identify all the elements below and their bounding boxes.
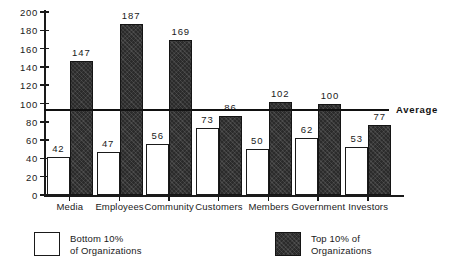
y-axis-tick-label: 80 <box>0 117 38 128</box>
bar-value-label: 102 <box>271 88 290 99</box>
bar-value-label: 47 <box>102 138 114 149</box>
bar-value-label: 56 <box>152 130 164 141</box>
bar-value-label: 100 <box>321 90 340 101</box>
x-axis-category-label: Media <box>57 201 84 212</box>
bar-bottom-decile: 73 <box>196 128 219 195</box>
filled-swatch-icon <box>275 232 301 256</box>
bar-group: 42147 <box>47 12 93 195</box>
bar-group: 50102 <box>246 12 292 195</box>
y-axis-tick-label: 120 <box>0 80 38 91</box>
x-axis-tick <box>119 190 120 201</box>
x-axis-category-label: Members <box>248 201 289 212</box>
average-reference-line <box>44 109 389 111</box>
legend-label-line-1: Bottom 10% <box>70 233 123 244</box>
bar-top-decile: 86 <box>219 116 242 195</box>
y-axis-tick-label: 160 <box>0 44 38 55</box>
y-axis-tick-label: 200 <box>0 7 38 18</box>
bar-group: 62100 <box>295 12 341 195</box>
bar-value-label: 77 <box>373 111 385 122</box>
bar-value-label: 53 <box>350 133 362 144</box>
average-line-label: Average <box>396 104 438 115</box>
bar-value-label: 62 <box>301 124 313 135</box>
y-axis-tick-label: 140 <box>0 62 38 73</box>
legend-label-line-1: Top 10% of <box>311 233 360 244</box>
x-axis-tick <box>317 190 318 201</box>
x-axis-tick <box>69 190 70 201</box>
bar-value-label: 147 <box>72 47 91 58</box>
bar-value-label: 73 <box>201 114 213 125</box>
bar-top-decile: 77 <box>368 125 391 195</box>
y-axis-tick-label: 100 <box>0 99 38 110</box>
bar-bottom-decile: 42 <box>47 157 70 195</box>
bar-group: 56169 <box>146 12 192 195</box>
x-axis-category-label: Employees <box>95 201 143 212</box>
y-axis-tick-label: 20 <box>0 172 38 183</box>
bar-group: 7386 <box>196 12 242 195</box>
bar-value-label: 169 <box>172 26 191 37</box>
bar-value-label: 86 <box>224 102 236 113</box>
bar-bottom-decile: 62 <box>295 138 318 195</box>
bar-value-label: 42 <box>52 143 64 154</box>
legend-label-bottom-decile: Bottom 10% of Organizations <box>70 232 142 257</box>
x-axis-tick <box>218 190 219 201</box>
y-axis-tick-label: 60 <box>0 135 38 146</box>
x-axis-tick <box>367 190 368 201</box>
bar-top-decile: 169 <box>169 40 192 195</box>
bar-bottom-decile: 50 <box>246 149 269 195</box>
y-axis-tick-label: 180 <box>0 25 38 36</box>
x-axis-category-label: Community <box>145 201 194 212</box>
bar-chart: 020406080100120140160180200 421474718756… <box>0 0 450 271</box>
bar-bottom-decile: 47 <box>97 152 120 195</box>
bar-top-decile: 100 <box>318 104 341 196</box>
y-axis-tick-label: 0 <box>0 190 38 201</box>
legend-label-line-2: Organizations <box>311 245 372 256</box>
x-axis-category-label: Customers <box>195 201 242 212</box>
x-axis-tick <box>168 190 169 201</box>
bar-group: 47187 <box>97 12 143 195</box>
bar-group: 5377 <box>345 12 391 195</box>
bar-top-decile: 102 <box>269 102 292 195</box>
legend-item-bottom-decile: Bottom 10% of Organizations <box>34 232 142 257</box>
bar-value-label: 50 <box>251 135 263 146</box>
bar-bottom-decile: 56 <box>146 144 169 195</box>
bar-top-decile: 147 <box>70 61 93 196</box>
x-axis-line <box>44 195 404 197</box>
legend-label-line-2: of Organizations <box>70 245 142 256</box>
legend-label-top-decile: Top 10% of Organizations <box>311 232 372 257</box>
x-axis-category-label: Investors <box>348 201 388 212</box>
legend-item-top-decile: Top 10% of Organizations <box>275 232 372 257</box>
bar-value-label: 187 <box>122 10 141 21</box>
x-axis-tick <box>268 190 269 201</box>
bar-bottom-decile: 53 <box>345 147 368 195</box>
hollow-swatch-icon <box>34 232 60 256</box>
x-axis-category-label: Government <box>292 201 346 212</box>
y-axis-tick-label: 40 <box>0 153 38 164</box>
